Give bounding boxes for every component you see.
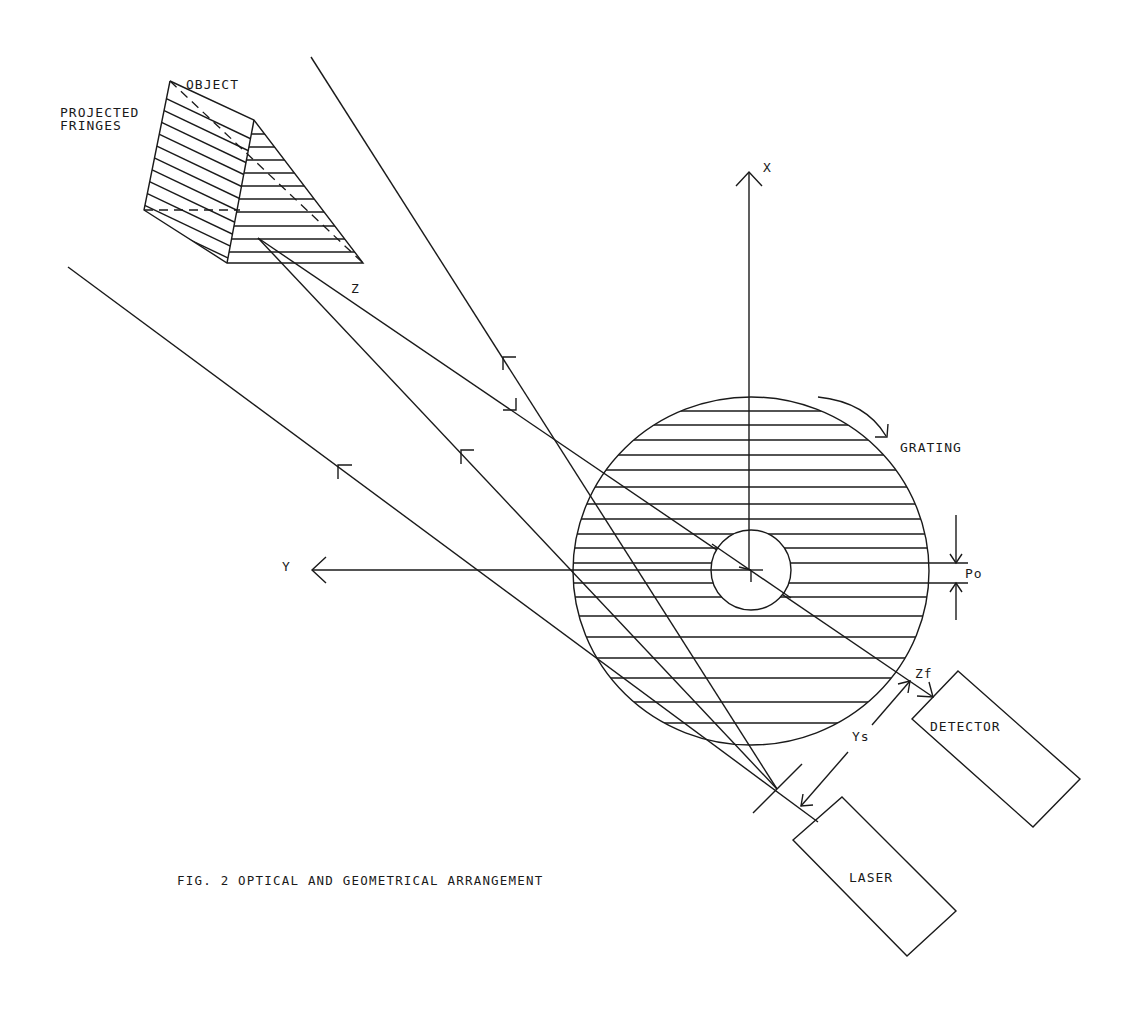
po-dimension: [929, 515, 968, 620]
figure-caption: FIG. 2 OPTICAL AND GEOMETRICAL ARRANGEME…: [177, 873, 543, 888]
detector-label: DETECTOR: [930, 719, 1001, 734]
projected-fringes-label-line2: FRINGES: [60, 118, 122, 133]
z-label: Z: [351, 281, 360, 296]
ys-label: Ys: [852, 729, 870, 744]
object-return-beam-line: [258, 238, 777, 789]
po-label: Po: [965, 566, 983, 581]
zf-label: Zf: [915, 666, 933, 681]
optical-arrangement-diagram: OBJECT PROJECTED FRINGES Z X Y GRATING P…: [0, 0, 1139, 1013]
detector-box: [912, 671, 1080, 827]
y-axis: [312, 557, 751, 583]
upper-beam-line: [311, 57, 777, 789]
grating-label: GRATING: [900, 440, 962, 455]
object-label: OBJECT: [186, 77, 239, 92]
x-axis-label: X: [763, 160, 772, 175]
x-axis: [736, 172, 762, 570]
laser-label: LASER: [849, 870, 893, 885]
grating-disk: [560, 397, 940, 745]
y-axis-label: Y: [282, 559, 291, 574]
projected-fringes-right-face: [220, 134, 370, 252]
detector-beam-line: [258, 238, 933, 697]
grating-rotation-arrow: [818, 397, 888, 437]
object-prism: [140, 81, 370, 278]
